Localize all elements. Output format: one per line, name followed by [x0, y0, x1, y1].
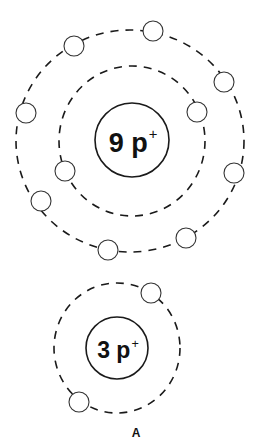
electron	[176, 228, 196, 248]
atom-diagram-svg	[0, 0, 260, 443]
electron	[98, 240, 118, 260]
lower-charge-sign: +	[131, 337, 138, 351]
lower-nucleus-label: 3 p+	[97, 338, 139, 363]
electron	[55, 161, 75, 181]
electron	[214, 72, 234, 92]
upper-nucleus-label: 9 p+	[109, 127, 158, 157]
electron	[224, 163, 244, 183]
electron	[187, 102, 207, 122]
lower-proton-count: 3 p	[97, 337, 130, 363]
upper-charge-sign: +	[149, 126, 158, 142]
electron	[16, 103, 36, 123]
diagram-canvas: 9 p+ 3 p+ A	[0, 0, 260, 443]
upper-proton-count: 9 p	[109, 128, 148, 158]
electron	[69, 392, 89, 412]
electron	[31, 191, 51, 211]
electron	[64, 36, 84, 56]
figure-caption: A	[132, 426, 141, 440]
electron	[141, 283, 161, 303]
electron	[143, 21, 163, 41]
